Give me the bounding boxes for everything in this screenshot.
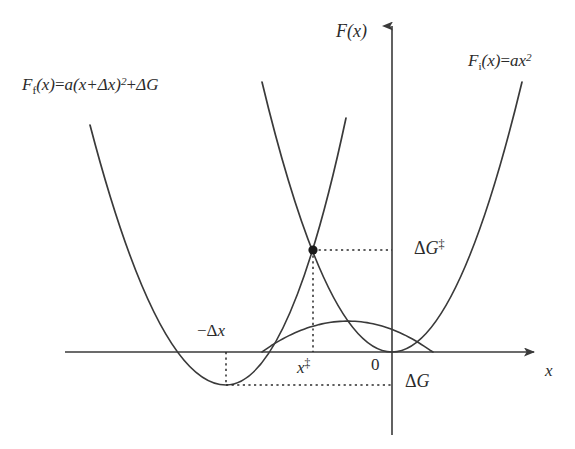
ff-plus: + bbox=[127, 75, 137, 94]
ff-equals: = bbox=[55, 75, 65, 94]
x-glyph-dx: x bbox=[218, 321, 226, 340]
reaction-free-energy-label: ΔG bbox=[405, 372, 430, 390]
crossing-point-marker bbox=[308, 245, 317, 254]
x-glyph-crossing: x bbox=[297, 358, 305, 377]
curve-label-final-state: Ff(x)=a(x+Δx)2+ΔG bbox=[22, 76, 158, 96]
fi-arg: (x) bbox=[482, 51, 501, 70]
fi-symbol: F bbox=[468, 51, 478, 70]
figure-canvas: Ff(x)=a(x+Δx)2+ΔG Fi(x)=ax2 F(x) x 0 ΔG‡… bbox=[0, 0, 575, 449]
g-glyph-dg: G bbox=[417, 371, 430, 391]
ff-arg: (x) bbox=[36, 75, 55, 94]
minus-glyph: − bbox=[197, 321, 207, 340]
ff-offset: ΔG bbox=[136, 75, 158, 94]
curve-label-initial-state: Fi(x)=ax2 bbox=[468, 52, 532, 72]
fi-power: 2 bbox=[526, 51, 532, 63]
displacement-label: −Δx bbox=[197, 322, 225, 339]
double-dagger-icon-x: ‡ bbox=[305, 357, 311, 370]
g-glyph-barrier: G bbox=[426, 238, 439, 258]
origin-label: 0 bbox=[371, 356, 380, 373]
ff-symbol: F bbox=[22, 75, 32, 94]
ff-parabola bbox=[90, 118, 346, 385]
fi-equals: = bbox=[500, 51, 510, 70]
delta-glyph-dg: Δ bbox=[405, 371, 417, 391]
crossing-abscissa-label: x‡ bbox=[297, 358, 310, 376]
ff-rhs: a(x+Δx) bbox=[65, 75, 121, 94]
x-axis-label: x bbox=[545, 362, 553, 379]
fi-variable: x bbox=[518, 51, 526, 70]
delta-glyph-dx: Δ bbox=[207, 321, 218, 340]
activation-barrier-label: ΔG‡ bbox=[414, 238, 445, 257]
y-axis-label: F(x) bbox=[336, 22, 367, 40]
delta-glyph-barrier: Δ bbox=[414, 238, 426, 258]
double-dagger-icon: ‡ bbox=[439, 237, 445, 251]
